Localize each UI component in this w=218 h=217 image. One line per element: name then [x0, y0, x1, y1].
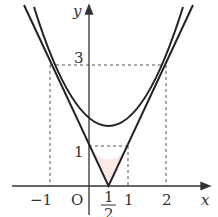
half-tick-denominator: 2 [104, 205, 114, 217]
x-tick-neg1: −1 [30, 191, 52, 209]
x-tick-1: 1 [124, 191, 134, 209]
x-axis-label: x [201, 191, 210, 209]
graph-canvas: y x O −1 1 2 1 2 1 3 [0, 0, 218, 217]
parabola-curve [34, 7, 183, 126]
y-arrow-icon [86, 5, 93, 14]
y-tick-3: 3 [74, 49, 84, 67]
shaded-region [89, 146, 128, 186]
origin-label: O [71, 191, 83, 209]
x-tick-2: 2 [162, 191, 172, 209]
v-shape-curve [24, 5, 193, 186]
half-tick-numerator: 1 [104, 188, 114, 206]
axes [12, 5, 210, 215]
y-axis-label: y [72, 2, 82, 20]
y-tick-1: 1 [74, 143, 84, 161]
x-arrow-icon [201, 183, 210, 190]
